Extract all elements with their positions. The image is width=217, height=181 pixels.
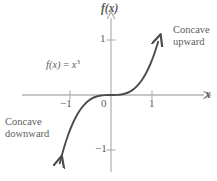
x-tick-label-negative-1: −1: [60, 97, 72, 109]
concave-upward-line-2: upward: [173, 36, 210, 48]
x-axis-label: x: [205, 88, 211, 101]
function-equation-label: f(x) = x3: [46, 59, 80, 71]
y-tick-label-1: 1: [100, 32, 106, 44]
concave-upward-annotation: Concave upward: [173, 24, 210, 48]
y-tick-label-negative-1: −1: [95, 142, 107, 154]
concavity-figure: f(x) x 1 −1 −1 1 0 f(x) = x3 Concave upw…: [0, 0, 217, 181]
y-axis-label: f(x): [101, 2, 118, 15]
concave-downward-line-2: downward: [5, 128, 49, 140]
x-tick-label-1: 1: [149, 97, 155, 109]
equation-function-name: f(x): [46, 59, 61, 70]
origin-label: 0: [101, 97, 107, 109]
concave-upward-line-1: Concave: [173, 24, 210, 36]
equation-exponent: 3: [76, 58, 80, 66]
concave-downward-line-1: Concave: [5, 116, 49, 128]
concave-downward-annotation: Concave downward: [5, 116, 49, 140]
